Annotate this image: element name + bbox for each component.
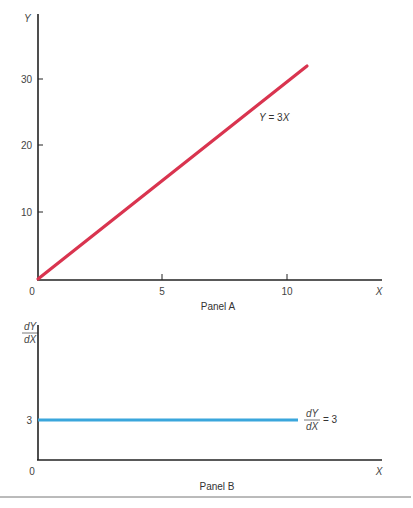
line-label-num: dY bbox=[306, 408, 320, 419]
figure: Y 30 20 10 0 5 10 X Panel A Y = 3X dY dX… bbox=[0, 0, 413, 508]
panel-b-x-label: X bbox=[375, 466, 383, 477]
panel-a-x-label: X bbox=[375, 286, 383, 297]
panel-b-y-label-den: dX bbox=[24, 334, 37, 345]
panel-a-origin-label: 0 bbox=[29, 286, 35, 297]
panel-a-y-label: Y bbox=[24, 13, 32, 24]
panel-b-origin-label: 0 bbox=[29, 466, 35, 477]
line-y-equals-3x bbox=[38, 66, 307, 279]
line-label-y-equals-3x: Y = 3X bbox=[259, 112, 290, 123]
y-tick-label-10: 10 bbox=[21, 207, 33, 218]
panel-b-y-label-num: dY bbox=[24, 321, 38, 332]
panel-b-y-tick-label-3: 3 bbox=[26, 415, 32, 426]
x-tick-label-10: 10 bbox=[281, 286, 293, 297]
panel-a: Y 30 20 10 0 5 10 X Panel A Y = 3X bbox=[21, 13, 383, 312]
x-tick-label-5: 5 bbox=[159, 286, 165, 297]
y-tick-label-20: 20 bbox=[21, 140, 33, 151]
panel-b: dY dX 3 0 X Panel B dY dX = 3 bbox=[22, 321, 383, 492]
panel-b-title: Panel B bbox=[199, 481, 234, 492]
y-tick-label-30: 30 bbox=[21, 74, 33, 85]
line-label-den: dX bbox=[306, 421, 319, 432]
panel-a-title: Panel A bbox=[201, 301, 236, 312]
line-label-rhs: = 3 bbox=[323, 414, 338, 425]
